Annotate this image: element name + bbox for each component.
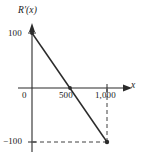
x-tick-label-500: 500 [59, 91, 73, 100]
x-tick-label-origin: 0 [22, 91, 27, 100]
x-axis-label: x [131, 81, 135, 91]
y-tick-label-neg-100: −100 [3, 137, 22, 146]
y-axis-arrowhead [29, 23, 35, 32]
data-point-1000-neg100 [105, 140, 109, 144]
revenue-derivative-figure: R′(x) x 100 −100 0 500 1,000 [0, 0, 144, 157]
y-tick-label-100: 100 [8, 29, 22, 38]
x-tick-label-1000: 1,000 [95, 91, 116, 100]
data-point-0-100 [30, 31, 34, 35]
y-axis-label: R′(x) [18, 6, 37, 16]
graph-canvas [0, 0, 144, 157]
